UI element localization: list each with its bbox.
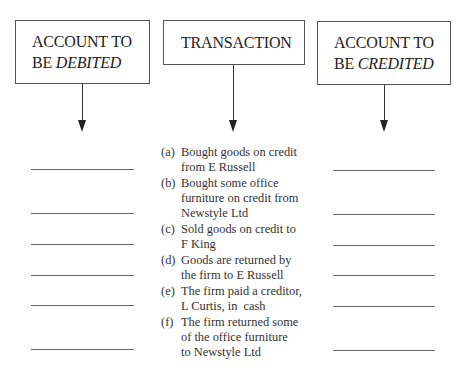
- description-line: L Curtis, in cash: [181, 299, 341, 314]
- description-line: Bought some office: [181, 176, 341, 191]
- credit-arrow-head-icon: [380, 120, 388, 132]
- transaction-label: (b): [161, 176, 175, 191]
- transaction-label: (a): [161, 145, 175, 160]
- debit-answer-blank-b[interactable]: [31, 213, 134, 214]
- credited-emphasis: CREDITED: [358, 55, 434, 72]
- description-line: Goods are returned by: [181, 253, 341, 268]
- transaction-label: (c): [161, 222, 175, 237]
- debited-emphasis: DEBITED: [56, 54, 121, 71]
- description-line: F King: [181, 237, 341, 252]
- transaction-description: The firm returned some of the office fur…: [181, 315, 341, 360]
- credit-answer-blank-b[interactable]: [333, 214, 435, 215]
- debited-box-label: ACCOUNT TO BE DEBITED: [32, 31, 132, 73]
- debit-arrow-head-icon: [78, 120, 86, 132]
- debit-answer-blank-e[interactable]: [31, 305, 134, 306]
- description-line: Newstyle Ltd: [181, 206, 341, 221]
- debit-answer-blank-f[interactable]: [31, 349, 134, 350]
- credit-answer-blank-f[interactable]: [333, 350, 435, 351]
- account-to-be-debited-box: ACCOUNT TO BE DEBITED: [15, 20, 150, 84]
- credit-answer-blank-e[interactable]: [333, 306, 435, 307]
- transaction-arrow-head-icon: [229, 120, 237, 132]
- credited-line2-prefix: BE: [334, 55, 358, 72]
- description-line: from E Russell: [181, 160, 341, 175]
- credited-box-label: ACCOUNT TO BE CREDITED: [334, 32, 434, 74]
- debit-answer-blank-c[interactable]: [31, 244, 134, 245]
- transaction-box-label: TRANSACTION: [181, 32, 292, 53]
- transaction-description: Sold goods on credit to F King: [181, 222, 341, 252]
- transaction-description: The firm paid a creditor, L Curtis, in c…: [181, 284, 341, 314]
- description-line: to Newstyle Ltd: [181, 345, 341, 360]
- description-line: of the office furniture: [181, 330, 341, 345]
- transaction-description: Goods are returned by the firm to E Russ…: [181, 253, 341, 283]
- transaction-description: Bought goods on credit from E Russell: [181, 145, 341, 175]
- description-line: furniture on credit from: [181, 191, 341, 206]
- description-line: The firm returned some: [181, 315, 341, 330]
- transaction-box: TRANSACTION: [163, 20, 305, 65]
- description-line: Sold goods on credit to: [181, 222, 341, 237]
- credit-answer-blank-a[interactable]: [333, 170, 435, 171]
- credit-answer-blank-c[interactable]: [333, 245, 435, 246]
- transaction-label: (e): [161, 284, 175, 299]
- debit-arrow-shaft: [82, 84, 83, 122]
- transaction-arrow-shaft: [233, 65, 234, 122]
- description-line: Bought goods on credit: [181, 145, 341, 160]
- credited-line1: ACCOUNT TO: [334, 34, 434, 51]
- credit-answer-blank-d[interactable]: [333, 275, 435, 276]
- description-line: the firm to E Russell: [181, 268, 341, 283]
- description-line: The firm paid a creditor,: [181, 284, 341, 299]
- transaction-label: (d): [161, 253, 175, 268]
- debited-line1: ACCOUNT TO: [32, 33, 132, 50]
- debited-line2-prefix: BE: [32, 54, 56, 71]
- transaction-label: (f): [161, 315, 173, 330]
- debit-answer-blank-a[interactable]: [31, 169, 134, 170]
- transaction-description: Bought some office furniture on credit f…: [181, 176, 341, 221]
- account-to-be-credited-box: ACCOUNT TO BE CREDITED: [317, 21, 451, 85]
- credit-arrow-shaft: [384, 85, 385, 122]
- debit-answer-blank-d[interactable]: [31, 275, 134, 276]
